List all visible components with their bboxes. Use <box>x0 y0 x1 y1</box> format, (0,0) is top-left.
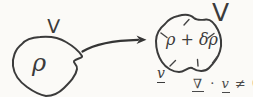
velocity-tick <box>198 60 199 67</box>
boundary-velocity-label: v <box>157 66 165 80</box>
left-volume-label: V <box>47 17 61 36</box>
not-equal-zero: ≠ 0 <box>235 76 253 91</box>
transition-arrow <box>83 40 139 52</box>
dot-operator: · <box>209 76 216 91</box>
velocity-symbol: v <box>222 76 230 93</box>
velocity-vector-symbol: v <box>157 65 165 83</box>
left-volume-outline <box>13 37 82 96</box>
nabla-symbol: ∇ <box>192 76 204 92</box>
hand-drawn-figure: V ρ V ρ + δρ v ∇ · v ≠ 0 <box>0 0 253 97</box>
divergence-equation: ∇ · v ≠ 0 <box>192 77 253 90</box>
right-volume-label: V <box>212 0 229 25</box>
left-density-label: ρ <box>32 51 46 75</box>
velocity-tick <box>170 61 176 67</box>
velocity-tick <box>184 20 189 26</box>
right-density-label: ρ + δρ <box>166 32 218 48</box>
